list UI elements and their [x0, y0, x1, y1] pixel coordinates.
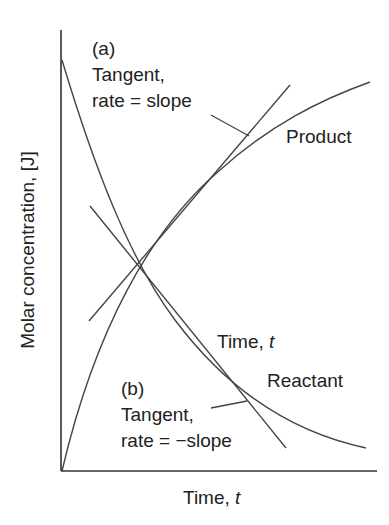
label-reactant: Reactant — [267, 370, 343, 392]
label-a-letter: (a) — [92, 38, 115, 60]
leader-a — [211, 115, 249, 136]
label-time-mid: Time, t — [217, 331, 274, 353]
leader-b — [211, 401, 247, 408]
label-b-rate: rate = −slope — [121, 430, 232, 452]
tangent-a-line — [89, 85, 290, 321]
label-product: Product — [286, 126, 351, 148]
label-a-rate: rate = slope — [92, 90, 192, 112]
label-b-tangent: Tangent, — [121, 404, 194, 426]
label-b-letter: (b) — [121, 378, 144, 400]
label-a-tangent: Tangent, — [92, 64, 165, 86]
y-axis-label: Molar concentration, [J] — [17, 151, 39, 348]
x-axis-label: Time, t — [183, 487, 240, 509]
